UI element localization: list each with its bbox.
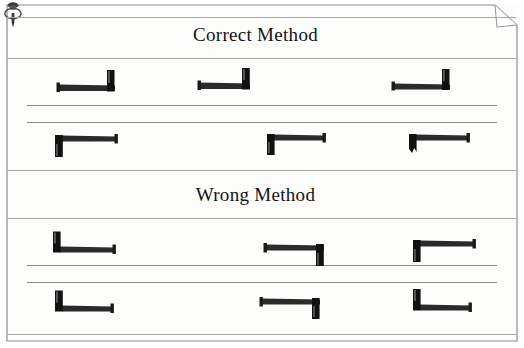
- nail-figure-wrong-1-a: [48, 230, 126, 260]
- rule-under-correct-row2: [7, 170, 516, 171]
- rule-wrong-surface-2: [27, 282, 497, 283]
- nail-figure-correct-1-a: [55, 68, 133, 98]
- nail-figure-wrong-2-a: [50, 289, 128, 319]
- rule-correct-surface-1: [27, 105, 497, 106]
- nail-figure-correct-2-b: [262, 130, 340, 160]
- nail-figure-wrong-1-c: [408, 236, 486, 266]
- nail-figure-correct-1-b: [196, 66, 274, 96]
- nail-figure-wrong-2-c: [408, 288, 486, 318]
- rule-bottom: [7, 334, 516, 335]
- nail-figure-wrong-1-b: [262, 240, 340, 270]
- nail-figure-correct-2-a: [50, 131, 128, 161]
- nail-figure-correct-2-c: [404, 130, 482, 160]
- rule-correct-surface-2: [27, 122, 497, 123]
- nail-figure-wrong-2-b: [258, 294, 336, 324]
- scanned-page: Correct Method Wrong Method: [0, 0, 524, 348]
- nail-figure-correct-1-c: [390, 67, 468, 97]
- rule-top: [7, 17, 516, 18]
- rule-under-wrong: [7, 218, 516, 219]
- section-title-correct: Correct Method: [0, 24, 511, 46]
- section-title-wrong: Wrong Method: [0, 184, 511, 206]
- rule-under-correct: [7, 58, 516, 59]
